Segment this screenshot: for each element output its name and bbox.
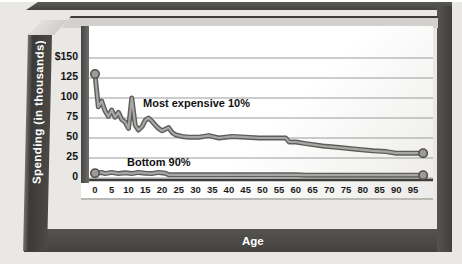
y-tick-label: 125: [46, 70, 78, 82]
y-tick-label: $150: [46, 50, 78, 62]
series-label-bottom-90: Bottom 90%: [127, 156, 191, 168]
figure-canvas: Age Spending (in thousands) $15012510075…: [0, 0, 462, 267]
plot-page-left-edge: [81, 26, 89, 183]
x-axis-title: Age: [24, 235, 264, 247]
slab-right-edge: [437, 6, 452, 252]
y-tick-label: 25: [46, 150, 78, 162]
y-tick-label: 75: [46, 110, 78, 122]
x-axis-title-bar: Age: [24, 229, 437, 252]
y-tick-label: 0: [46, 170, 78, 182]
y-tick-label: 100: [46, 90, 78, 102]
series-label-most-expensive: Most expensive 10%: [143, 97, 250, 109]
y-tick-labels: $1501251007550250: [46, 0, 78, 200]
y-tick-label: 50: [46, 130, 78, 142]
slab-top-edge: [26, 2, 452, 10]
y-axis-title: Spending (in thousands): [29, 40, 46, 246]
x-tick-label: 95: [401, 184, 425, 195]
